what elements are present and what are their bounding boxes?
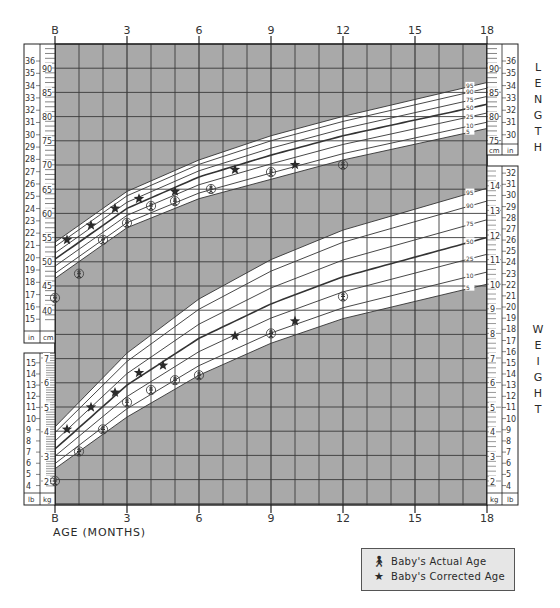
svg-text:13: 13 <box>26 381 36 390</box>
svg-text:10: 10 <box>466 122 474 129</box>
svg-text:15: 15 <box>26 359 36 368</box>
svg-text:3: 3 <box>124 24 131 37</box>
svg-text:10: 10 <box>26 415 36 424</box>
svg-text:75: 75 <box>466 220 474 227</box>
svg-text:12: 12 <box>490 232 500 241</box>
svg-text:85: 85 <box>42 89 52 98</box>
svg-text:5: 5 <box>466 284 470 291</box>
svg-text:5: 5 <box>490 404 495 413</box>
svg-text:13: 13 <box>506 381 516 390</box>
svg-text:6: 6 <box>196 24 203 37</box>
svg-text:10: 10 <box>466 272 474 279</box>
svg-text:20: 20 <box>25 254 35 263</box>
svg-text:17: 17 <box>25 291 35 300</box>
svg-text:14: 14 <box>26 370 36 379</box>
svg-text:18: 18 <box>25 278 35 287</box>
svg-text:31: 31 <box>25 118 35 127</box>
svg-text:80: 80 <box>489 113 499 122</box>
svg-text:15: 15 <box>408 24 422 37</box>
svg-text:9: 9 <box>268 24 275 37</box>
svg-text:18: 18 <box>480 512 494 525</box>
length-side-label: LENGTH <box>531 60 545 156</box>
svg-text:12: 12 <box>506 392 516 401</box>
x-axis-label: AGE (MONTHS) <box>53 526 146 539</box>
svg-text:12: 12 <box>26 392 36 401</box>
svg-text:95: 95 <box>466 189 474 196</box>
svg-text:6: 6 <box>44 379 49 388</box>
svg-text:16: 16 <box>506 348 516 357</box>
legend-item-corrected: ★ Baby's Corrected Age <box>372 569 514 584</box>
svg-text:35: 35 <box>25 69 35 78</box>
svg-text:21: 21 <box>25 241 35 250</box>
svg-text:15: 15 <box>408 512 422 525</box>
growth-chart: 51025507590955102550759095BB336699121215… <box>0 0 560 608</box>
svg-text:35: 35 <box>506 69 516 78</box>
svg-text:22: 22 <box>506 281 516 290</box>
svg-text:95: 95 <box>466 82 474 89</box>
svg-text:40: 40 <box>42 307 52 316</box>
svg-text:15: 15 <box>25 315 35 324</box>
svg-text:26: 26 <box>506 236 516 245</box>
svg-text:9: 9 <box>268 512 275 525</box>
svg-text:13: 13 <box>490 207 500 216</box>
svg-text:22: 22 <box>25 229 35 238</box>
svg-text:32: 32 <box>506 169 516 178</box>
svg-text:kg: kg <box>43 496 52 504</box>
svg-text:23: 23 <box>25 217 35 226</box>
svg-text:9: 9 <box>506 426 511 435</box>
svg-text:5: 5 <box>44 404 49 413</box>
svg-text:9: 9 <box>490 305 495 314</box>
svg-text:31: 31 <box>506 180 516 189</box>
svg-text:2: 2 <box>490 478 495 487</box>
svg-text:50: 50 <box>466 104 474 111</box>
svg-text:cm: cm <box>43 334 54 342</box>
svg-text:33: 33 <box>506 94 516 103</box>
svg-text:90: 90 <box>466 202 474 209</box>
svg-text:29: 29 <box>25 143 35 152</box>
svg-text:24: 24 <box>25 205 35 214</box>
svg-text:18: 18 <box>506 325 516 334</box>
svg-text:17: 17 <box>506 337 516 346</box>
svg-text:32: 32 <box>25 106 35 115</box>
svg-text:25: 25 <box>466 255 474 262</box>
svg-text:36: 36 <box>25 57 35 66</box>
svg-text:in: in <box>507 147 513 155</box>
svg-text:10: 10 <box>506 415 516 424</box>
svg-text:7: 7 <box>26 448 31 457</box>
svg-text:16: 16 <box>25 303 35 312</box>
svg-text:30: 30 <box>25 131 35 140</box>
svg-text:B: B <box>51 24 59 37</box>
svg-text:6: 6 <box>506 459 511 468</box>
svg-text:26: 26 <box>25 180 35 189</box>
svg-text:55: 55 <box>42 234 52 243</box>
svg-text:8: 8 <box>490 330 495 339</box>
svg-text:12: 12 <box>336 512 350 525</box>
svg-text:B: B <box>51 512 59 525</box>
svg-text:50: 50 <box>42 258 52 267</box>
svg-text:11: 11 <box>490 256 500 265</box>
svg-text:15: 15 <box>506 359 516 368</box>
legend: 🚶︎ Baby's Actual Age ★ Baby's Corrected … <box>361 548 515 591</box>
weight-side-label: WEIGHT <box>531 322 545 418</box>
svg-text:4: 4 <box>506 482 511 491</box>
svg-text:8: 8 <box>506 437 511 446</box>
svg-text:5: 5 <box>506 470 511 479</box>
svg-text:30: 30 <box>506 191 516 200</box>
svg-text:4: 4 <box>490 428 495 437</box>
svg-text:6: 6 <box>490 379 495 388</box>
svg-text:lb: lb <box>507 496 514 504</box>
svg-text:75: 75 <box>466 96 474 103</box>
svg-text:8: 8 <box>26 437 31 446</box>
svg-text:7: 7 <box>490 355 495 364</box>
svg-text:lb: lb <box>28 496 35 504</box>
baby-icon: 🚶︎ <box>372 554 386 569</box>
svg-text:45: 45 <box>42 282 52 291</box>
svg-text:25: 25 <box>25 192 35 201</box>
svg-text:85: 85 <box>489 89 499 98</box>
svg-text:14: 14 <box>490 182 500 191</box>
svg-text:33: 33 <box>25 94 35 103</box>
legend-item-actual: 🚶︎ Baby's Actual Age <box>372 554 514 569</box>
svg-text:30: 30 <box>506 131 516 140</box>
svg-text:65: 65 <box>42 186 52 195</box>
svg-text:75: 75 <box>42 137 52 146</box>
